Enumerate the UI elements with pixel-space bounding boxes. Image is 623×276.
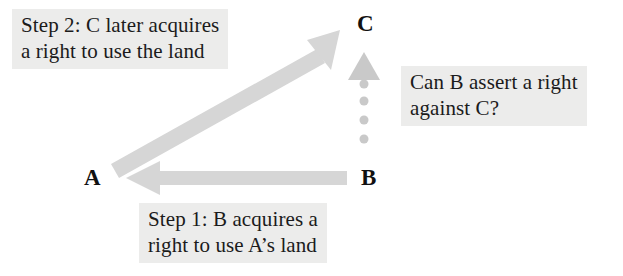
annotation-step2-line2: a right to use the land [21,38,219,64]
arrow-b-to-a [126,161,347,195]
annotation-question-line1: Can B assert a right [410,69,578,95]
vertex-label-c: C [357,12,374,35]
arrow-b-to-c [348,52,380,144]
annotation-step1: Step 1: B acquires a right to use A’s la… [139,203,327,263]
annotation-step2-line1: Step 2: C later acquires [21,12,219,38]
annotation-step1-line2: right to use A’s land [148,232,318,258]
annotation-question: Can B assert a right against C? [401,66,587,126]
annotation-question-line2: against C? [410,95,578,121]
diagram-canvas: C A B Step 2: C later acquires a right t… [0,0,623,276]
vertex-label-a: A [84,166,101,189]
annotation-step1-line1: Step 1: B acquires a [148,206,318,232]
annotation-step2: Step 2: C later acquires a right to use … [12,9,228,69]
vertex-label-b: B [361,166,376,189]
